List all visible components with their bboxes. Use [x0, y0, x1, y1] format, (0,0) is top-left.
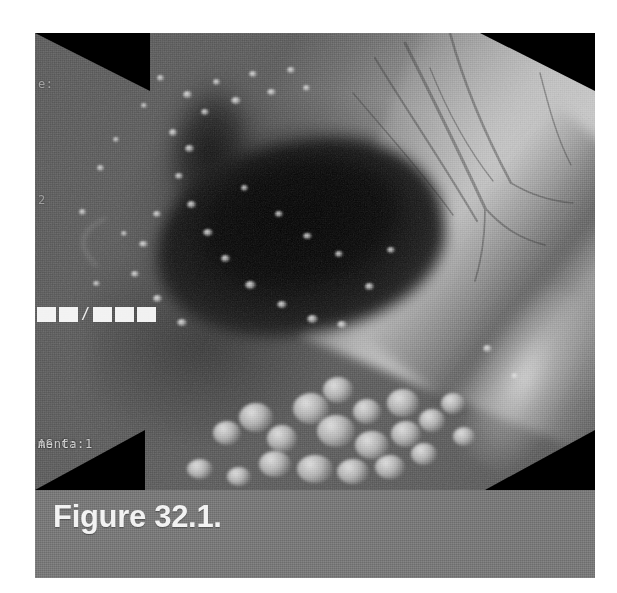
osd-date-block — [59, 307, 78, 322]
osd-line-1: e: — [38, 77, 54, 91]
endoscopy-photo: e: 2 / AS Ca:1 ment: ment: — [35, 33, 595, 490]
figure-caption-label: Figure 32.1. — [53, 499, 222, 535]
osd-date-blocks: / — [37, 307, 156, 322]
osd-date-block — [37, 307, 56, 322]
nodular-mucosa-plaque — [205, 363, 505, 490]
osd-line-enhancement-text: ment: — [38, 437, 77, 451]
figure-caption-bar: Figure 32.1. — [35, 490, 595, 578]
vignette-corner-top-right — [480, 33, 595, 91]
osd-line-2: 2 — [38, 193, 46, 207]
osd-date-separator: / — [81, 307, 90, 322]
osd-date-block — [137, 307, 156, 322]
osd-date-block — [93, 307, 112, 322]
osd-line-enhancement: ment: — [38, 437, 77, 451]
page-canvas: e: 2 / AS Ca:1 ment: ment: Figure 32.1. — [0, 0, 617, 593]
osd-date-block — [115, 307, 134, 322]
figure-block: e: 2 / AS Ca:1 ment: ment: Figure 32.1. — [35, 33, 595, 578]
vignette-corner-bottom-right — [485, 430, 595, 490]
